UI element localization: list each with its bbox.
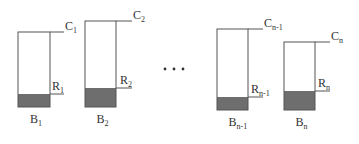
bin-label: B2 [97,112,109,128]
bin-label: B1 [30,112,42,128]
bin-label: Bn [296,115,308,131]
ellipsis [164,68,185,71]
bin-n: CnRnBn [284,29,343,131]
bin-label: Bn-1 [229,115,248,131]
bin-2: C2R2B2 [85,8,145,128]
bin-fill [85,88,116,107]
capacity-label: Cn [331,29,343,45]
residual-label: R2 [120,73,132,89]
bin-fill [18,94,50,107]
residual-label: Rn [318,76,330,92]
residual-label: Rn-1 [251,82,270,98]
residual-label: R1 [52,79,64,95]
capacity-label: C1 [65,19,77,35]
bin-n-1: Cn-1Rn-1Bn-1 [217,16,283,131]
bin-1: C1R1B1 [18,19,77,128]
bin-fill [284,91,315,110]
capacity-label: C2 [133,8,145,24]
bin-fill [217,97,248,110]
bin-diagram: C1R1B1C2R2B2Cn-1Rn-1Bn-1CnRnBn [0,0,359,144]
capacity-label: Cn-1 [264,16,283,32]
